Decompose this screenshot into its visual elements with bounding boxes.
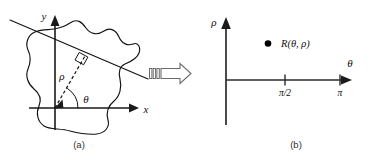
intersecting-line: [10, 20, 148, 79]
data-point-label: R(θ, ρ): [280, 38, 310, 50]
panel-b: ρ θ R(θ, ρ) π/2 π (b): [210, 16, 353, 150]
panel-b-theta-axis-arrowhead: [341, 75, 352, 84]
tick-label-pi-over-2: π/2: [279, 88, 291, 98]
panel-a-x-axis-label: x: [143, 103, 149, 115]
theta-label: θ: [83, 93, 89, 105]
panel-b-rho-axis-label: ρ: [210, 16, 216, 28]
theta-arc: [68, 89, 79, 109]
arrow-tail-strip-3: [157, 69, 159, 79]
figure-svg: y x ρ θ (a) ρ: [0, 0, 372, 161]
panel-b-theta-axis-label: θ: [347, 57, 353, 69]
rho-segment: [55, 56, 85, 108]
data-point-R: [265, 40, 272, 47]
panel-b-rho-axis-arrowhead: [221, 17, 231, 29]
arrow-tail-strip-1: [150, 69, 152, 79]
panel-a-caption: (a): [73, 139, 85, 150]
transform-block-arrow: [150, 64, 192, 84]
panel-a-y-axis-arrowhead: [51, 15, 60, 26]
panel-b-caption: (b): [290, 139, 302, 150]
panel-a: y x ρ θ (a): [10, 10, 149, 150]
arrow-tail-strip-2: [153, 69, 155, 79]
panel-a-y-axis-label: y: [41, 10, 47, 22]
figure-root: y x ρ θ (a) ρ: [0, 0, 372, 161]
blob-shape: [27, 21, 140, 135]
panel-a-x-axis-arrowhead: [129, 104, 139, 113]
rho-label: ρ: [58, 70, 64, 82]
block-arrow-body: [161, 64, 191, 84]
tick-label-pi: π: [338, 88, 343, 98]
